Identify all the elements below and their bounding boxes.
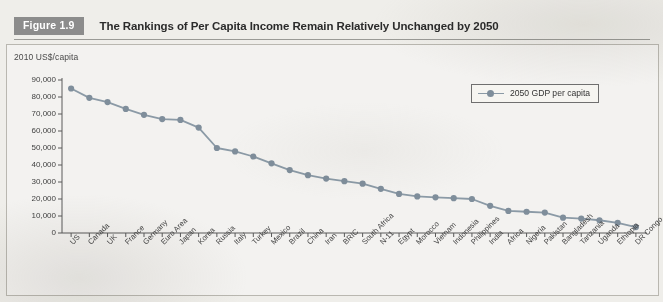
- data-point: [305, 172, 311, 178]
- data-point: [323, 176, 329, 182]
- y-tick-label: 60,000: [12, 126, 56, 135]
- chart-svg: [0, 0, 663, 302]
- data-point: [141, 112, 147, 118]
- y-tick-label: 50,000: [12, 143, 56, 152]
- data-point: [505, 208, 511, 214]
- y-tick-label: 10,000: [12, 211, 56, 220]
- y-tick-label: 20,000: [12, 194, 56, 203]
- y-tick-label: 80,000: [12, 92, 56, 101]
- legend-entry-label: 2050 GDP per capita: [510, 88, 590, 98]
- data-point: [123, 106, 129, 112]
- y-tick-label: 0: [12, 228, 56, 237]
- data-point: [68, 85, 74, 91]
- data-point: [287, 167, 293, 173]
- data-point: [469, 196, 475, 202]
- data-point: [451, 195, 457, 201]
- y-tick-label: 30,000: [12, 177, 56, 186]
- chart-plot-area: 010,00020,00030,00040,00050,00060,00070,…: [0, 0, 663, 302]
- data-point: [196, 125, 202, 131]
- data-point: [250, 153, 256, 159]
- data-point: [268, 160, 274, 166]
- figure-page: Figure 1.9 The Rankings of Per Capita In…: [0, 0, 663, 302]
- data-point: [232, 148, 238, 154]
- data-point: [432, 194, 438, 200]
- y-tick-label: 40,000: [12, 160, 56, 169]
- data-point: [86, 95, 92, 101]
- y-tick-label: 70,000: [12, 109, 56, 118]
- data-point: [378, 186, 384, 192]
- chart-legend: 2050 GDP per capita: [471, 84, 599, 103]
- data-point: [414, 193, 420, 199]
- data-point: [177, 117, 183, 123]
- data-point: [159, 116, 165, 122]
- y-tick-label: 90,000: [12, 75, 56, 84]
- data-point: [396, 191, 402, 197]
- data-point: [360, 181, 366, 187]
- data-point: [104, 99, 110, 105]
- data-point: [487, 203, 493, 209]
- data-point: [523, 209, 529, 215]
- data-point: [542, 210, 548, 216]
- legend-marker-icon: [478, 89, 504, 98]
- data-point: [341, 178, 347, 184]
- data-point: [214, 145, 220, 151]
